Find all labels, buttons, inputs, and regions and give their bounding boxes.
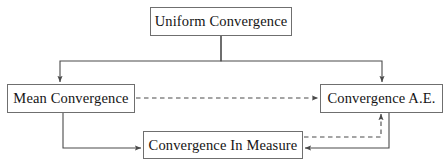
edge-mean-to-convergence-in-measure: [63, 113, 141, 148]
edge-convergence-ae-to-convergence-in-measure: [305, 113, 389, 148]
node-uniform-convergence-label: Uniform Convergence: [155, 14, 288, 29]
convergence-diagram: Uniform Convergence Mean Convergence Con…: [0, 0, 445, 167]
node-convergence-in-measure: Convergence In Measure: [143, 131, 303, 159]
edge-convergence-in-measure-to-convergence-ae: [304, 114, 381, 137]
node-mean-convergence: Mean Convergence: [7, 84, 135, 113]
node-convergence-in-measure-label: Convergence In Measure: [149, 138, 298, 153]
edge-uniform-to-mean: [60, 36, 221, 82]
node-convergence-ae: Convergence A.E.: [320, 84, 443, 113]
edge-uniform-to-convergence-ae: [221, 36, 382, 82]
node-convergence-ae-label: Convergence A.E.: [327, 91, 435, 106]
node-mean-convergence-label: Mean Convergence: [13, 91, 128, 106]
node-uniform-convergence: Uniform Convergence: [150, 7, 292, 36]
